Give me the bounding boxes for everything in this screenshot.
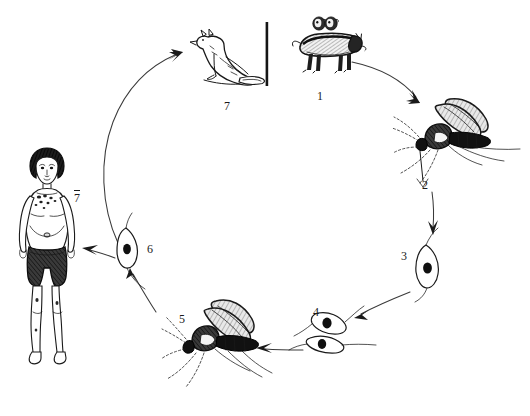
- stage-label-5: 5: [179, 313, 185, 325]
- stage-label-7-human: 7: [74, 190, 80, 204]
- illustration-human-child-patient: [19, 148, 74, 364]
- arrow-sandfly-to-promastigote: [428, 192, 438, 235]
- stage-label-3: 3: [401, 250, 407, 262]
- cycle-arrows: [82, 49, 438, 353]
- diagram-artwork: .st { fill:none; stroke:#1a1a1a; stroke-…: [0, 0, 530, 416]
- stage-label-1: 1: [317, 90, 323, 102]
- illustration-sandfly-stage-2: [392, 99, 520, 187]
- illustration-promastigote-stage-3: [415, 228, 438, 302]
- illustration-wild-canid-reservoir: [190, 29, 264, 85]
- arrow-amastigote-to-human: [82, 245, 115, 258]
- rodent-right: [325, 17, 339, 30]
- arrow-amastigote-to-reservoir: [104, 49, 183, 243]
- arrow-dividing-to-sandfly: [256, 343, 303, 353]
- dog-figure: [292, 33, 366, 73]
- stage-label-2: 2: [422, 179, 428, 191]
- stage-label-6: 6: [147, 243, 153, 255]
- stage-label-7-reservoir: 7: [224, 100, 230, 112]
- arrow-promastigote-to-dividing: [354, 292, 410, 320]
- life-cycle-diagram: .st { fill:none; stroke:#1a1a1a; stroke-…: [0, 0, 530, 416]
- rodent-left: [313, 17, 327, 30]
- illustration-dog-and-rodents: [292, 17, 366, 73]
- vertical-separator-bar: [266, 22, 269, 86]
- illustration-amastigote-stage-6: [117, 213, 145, 289]
- illustration-sandfly-stage-5: [161, 300, 272, 387]
- stage-label-4: 4: [313, 306, 319, 318]
- arrow-dog-to-sandfly: [352, 62, 420, 104]
